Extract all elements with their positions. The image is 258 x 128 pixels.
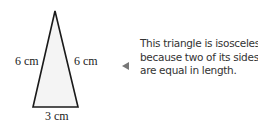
- left-side-label: 6 cm: [15, 54, 39, 69]
- base-label: 3 cm: [45, 109, 69, 124]
- callout-line-3: are equal in length.: [140, 64, 258, 78]
- callout-pointer-icon: [122, 62, 129, 70]
- isosceles-triangle: [33, 11, 78, 107]
- callout-line-1: This triangle is isosceles: [140, 37, 258, 51]
- callout-text: This triangle is isosceles because two o…: [140, 37, 258, 78]
- right-side-label: 6 cm: [74, 54, 98, 69]
- callout-line-2: because two of its sides: [140, 51, 258, 65]
